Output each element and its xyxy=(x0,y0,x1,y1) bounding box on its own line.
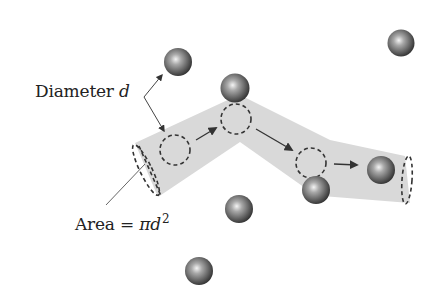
diameter-variable: d xyxy=(119,81,130,101)
pi-symbol: π xyxy=(139,214,150,234)
area-label-text: Area = xyxy=(75,214,139,234)
diameter-pointers xyxy=(144,75,164,131)
sphere-3 xyxy=(221,74,250,103)
collision-cylinder-diagram: Diameter d Area = πd2 xyxy=(0,0,439,306)
sphere-7 xyxy=(185,257,213,285)
area-variable: d xyxy=(150,214,161,234)
sphere-6 xyxy=(225,195,253,223)
collision-tube xyxy=(128,98,413,204)
area-exponent: 2 xyxy=(162,212,169,226)
diagram-canvas xyxy=(0,0,439,306)
diameter-pointer-to-sphere xyxy=(144,75,162,97)
sphere-4 xyxy=(302,176,330,204)
sphere-2 xyxy=(388,30,415,57)
area-pointer-line xyxy=(106,164,145,205)
area-label: Area = πd2 xyxy=(75,212,169,234)
diameter-pointer-to-circle xyxy=(144,97,164,131)
sphere-5 xyxy=(367,156,395,184)
sphere-1 xyxy=(164,48,192,76)
diameter-label-text: Diameter xyxy=(35,81,114,101)
diameter-label: Diameter d xyxy=(35,81,130,101)
tube-body xyxy=(135,98,410,203)
